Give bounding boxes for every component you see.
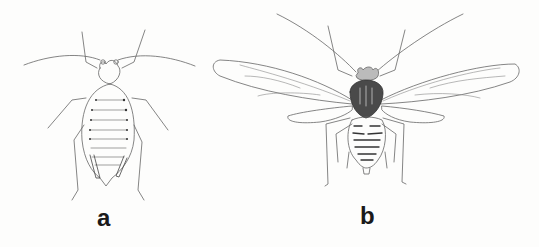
aphid-b-drawing xyxy=(213,14,519,186)
figure-label-b: b xyxy=(360,204,375,228)
aphid-a-drawing xyxy=(24,30,195,200)
illustration-canvas xyxy=(0,0,539,247)
figure-label-a: a xyxy=(97,206,110,230)
